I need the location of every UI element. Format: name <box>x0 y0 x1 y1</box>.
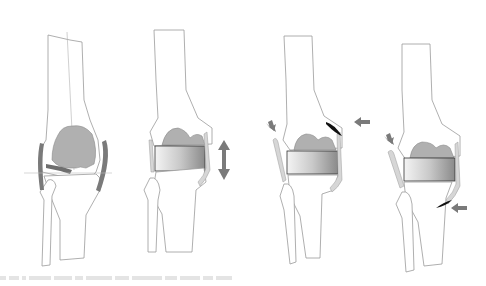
panel-1-native-knee <box>24 32 112 266</box>
panel-3-proximal-release <box>266 36 370 264</box>
spacer-block <box>287 151 338 174</box>
medial-ligament-released <box>273 138 286 182</box>
medial-ligament-released <box>388 150 404 188</box>
caption-strip: illegible faint caption text <box>0 276 300 282</box>
femur-outline <box>150 30 212 146</box>
arrow-down-right-icon <box>266 120 276 132</box>
caption-text: illegible faint caption text <box>235 276 236 280</box>
knee-balancing-diagram <box>0 0 486 286</box>
arrow-left-icon <box>451 203 467 213</box>
spacer-block <box>404 158 455 181</box>
arrow-down-right-icon <box>384 133 394 145</box>
double-vertical-arrow-icon <box>218 140 230 180</box>
spacer-block <box>155 146 205 171</box>
panel-2-spacer-asymmetric <box>144 30 230 252</box>
fibula-outline <box>40 180 56 266</box>
fibula-outline <box>144 178 160 252</box>
fibula-outline <box>396 192 414 272</box>
fibula-outline <box>280 184 296 264</box>
femur-outline <box>283 36 342 150</box>
panel-4-distal-release <box>384 44 467 272</box>
arrow-left-icon <box>354 117 370 127</box>
femur-outline <box>398 44 460 160</box>
tibia-outline <box>152 168 206 252</box>
